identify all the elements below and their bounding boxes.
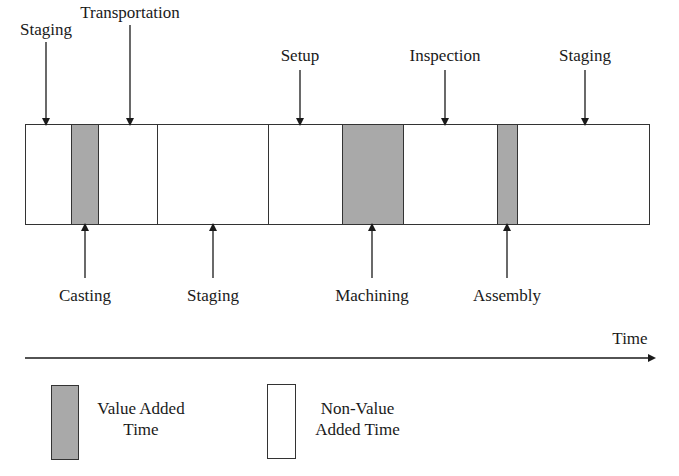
label-casting: Casting <box>59 287 111 304</box>
label-assembly: Assembly <box>473 287 541 304</box>
legend-label-value-added: Value Added Time <box>86 398 196 440</box>
axis-label-time: Time <box>612 330 647 347</box>
legend-label-non-value-added: Non-Value Added Time <box>300 398 415 440</box>
label-staging-2: Staging <box>187 287 239 304</box>
legend-swatch-non-value-added <box>267 384 296 459</box>
legend-swatch-value-added <box>51 385 79 460</box>
label-machining: Machining <box>335 287 409 304</box>
